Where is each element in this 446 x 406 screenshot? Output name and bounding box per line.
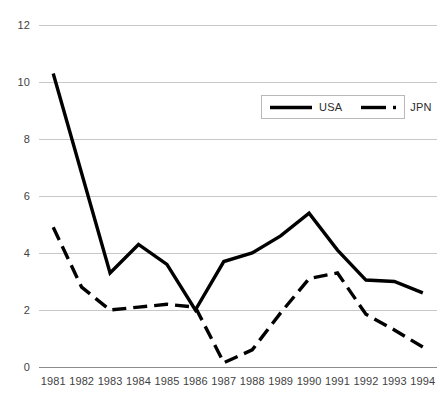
y-tick-label: 0 <box>4 361 30 373</box>
legend-swatch-solid-icon <box>269 102 313 113</box>
y-tick-label: 4 <box>4 247 30 259</box>
line-chart: 024681012 198119821983198419851986198719… <box>0 0 446 406</box>
plot-area <box>0 0 446 406</box>
legend-label-jpn: JPN <box>410 101 431 113</box>
y-tick-label: 8 <box>4 133 30 145</box>
y-tick-label: 2 <box>4 304 30 316</box>
series-line-jpn <box>53 227 423 362</box>
legend-entry-usa: USA <box>269 96 342 118</box>
chart-legend: USA JPN <box>261 95 405 119</box>
legend-entry-jpn: JPN <box>360 96 431 118</box>
y-tick-label: 12 <box>4 19 30 31</box>
y-tick-label: 6 <box>4 190 30 202</box>
legend-label-usa: USA <box>319 101 342 113</box>
gridlines <box>39 26 437 368</box>
x-tick-label: 1994 <box>403 375 443 387</box>
legend-swatch-dashed-icon <box>360 102 404 113</box>
y-tick-label: 10 <box>4 76 30 88</box>
